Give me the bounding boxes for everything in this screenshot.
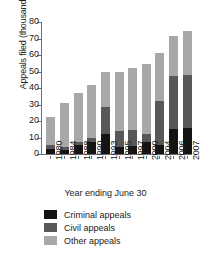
legend-item-other-appeals: Other appeals xyxy=(44,234,131,247)
bar-segment-other-appeals xyxy=(128,68,137,130)
bar-segment-civil-appeals xyxy=(183,75,192,128)
bar-segment-civil-appeals xyxy=(155,101,164,145)
x-axis-tick-labels: 1980198419881990199319951997200020042006… xyxy=(44,156,194,186)
bar-segment-other-appeals xyxy=(155,53,164,101)
x-tick-label-1980: 1980 xyxy=(54,141,64,160)
bar-2006 xyxy=(169,36,178,154)
x-tick-mark xyxy=(91,156,92,159)
x-tick-mark xyxy=(159,156,160,159)
bar-2007 xyxy=(183,31,192,154)
legend-swatch xyxy=(44,236,57,245)
y-tick-label: 20 xyxy=(17,115,39,125)
plot-area: 01020304050607080 xyxy=(44,22,194,154)
bar-segment-civil-appeals xyxy=(101,107,110,134)
x-tick-label-1997: 1997 xyxy=(136,141,146,160)
x-axis-title: Year ending June 30 xyxy=(0,188,211,198)
legend-swatch xyxy=(44,223,57,232)
bar-segment-other-appeals xyxy=(101,72,110,107)
x-tick-label-2007: 2007 xyxy=(191,141,201,160)
x-tick-label-1995: 1995 xyxy=(123,141,133,160)
x-tick-mark xyxy=(187,156,188,159)
bar-segment-other-appeals xyxy=(169,36,178,76)
x-tick-mark xyxy=(132,156,133,159)
x-tick-label-1984: 1984 xyxy=(68,141,78,160)
x-tick-mark xyxy=(105,156,106,159)
y-tick-label: 60 xyxy=(17,49,39,59)
x-tick-label-2000: 2000 xyxy=(150,141,160,160)
bar-segment-other-appeals xyxy=(87,85,96,139)
bar-segment-other-appeals xyxy=(142,64,151,134)
y-tick-label: 50 xyxy=(17,66,39,76)
legend-item-criminal-appeals: Criminal appeals xyxy=(44,208,131,221)
bar-segment-other-appeals xyxy=(183,31,192,75)
bar-segment-other-appeals xyxy=(74,93,83,143)
x-tick-mark xyxy=(119,156,120,159)
x-tick-mark xyxy=(146,156,147,159)
bar-2004 xyxy=(155,53,164,154)
legend-item-civil-appeals: Civil appeals xyxy=(44,221,131,234)
legend-label: Other appeals xyxy=(64,236,121,246)
bar-group xyxy=(44,22,194,154)
legend-label: Civil appeals xyxy=(64,223,115,233)
x-tick-label-2006: 2006 xyxy=(177,141,187,160)
y-tick-label: 0 xyxy=(17,148,39,158)
bar-segment-civil-appeals xyxy=(169,76,178,129)
x-tick-label-1993: 1993 xyxy=(109,141,119,160)
x-tick-mark xyxy=(50,156,51,159)
y-tick-label: 10 xyxy=(17,132,39,142)
bar-segment-other-appeals xyxy=(115,72,124,131)
x-tick-label-1988: 1988 xyxy=(82,141,92,160)
x-tick-label-1990: 1990 xyxy=(95,141,105,160)
legend-swatch xyxy=(44,210,57,219)
legend-label: Criminal appeals xyxy=(64,210,131,220)
y-tick-label: 70 xyxy=(17,33,39,43)
chart-legend: Criminal appealsCivil appealsOther appea… xyxy=(44,208,131,247)
y-tick-label: 30 xyxy=(17,99,39,109)
y-tick-label: 80 xyxy=(17,16,39,26)
stacked-bar-chart: Appeals filed (thousands) 01020304050607… xyxy=(0,0,211,255)
x-tick-mark xyxy=(78,156,79,159)
y-tick-label: 40 xyxy=(17,82,39,92)
x-tick-mark xyxy=(173,156,174,159)
x-tick-label-2004: 2004 xyxy=(163,141,173,160)
x-tick-mark xyxy=(64,156,65,159)
